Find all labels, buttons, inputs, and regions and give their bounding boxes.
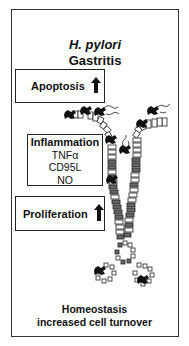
footer-cell-turnover: increased cell turnover [0, 316, 189, 329]
gland-left-column [108, 145, 124, 239]
surface-epithelium-left [73, 111, 112, 139]
gastric-gland-illustration [0, 0, 189, 346]
footer-homeostasis: Homeostasis [0, 303, 189, 316]
